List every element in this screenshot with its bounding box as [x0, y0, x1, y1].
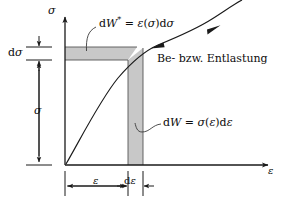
sigma-dimension-label: σ: [34, 105, 42, 116]
d-sigma-label: dσ: [8, 47, 23, 58]
dw-equals-sign: =: [185, 116, 194, 129]
dw-w: W: [170, 116, 181, 129]
dw-star-equals-sign: =: [125, 17, 134, 30]
dw-star-rhs-dsigma: σ: [167, 17, 175, 30]
d-sigma-prefix: d: [8, 46, 15, 59]
dw-rhs-deps: ε: [227, 116, 233, 129]
epsilon-dimension-label: ε: [93, 176, 98, 186]
diagram-canvas: [0, 0, 287, 207]
loading-unloading-caption: Be- bzw. Entlastung: [157, 53, 268, 64]
sigma-axis-label: σ: [48, 5, 56, 16]
stress-strain-work-diagram: σ ε dσ σ ε dε dW* = ε(σ)dσ dW = σ(ε)dε B…: [0, 0, 287, 207]
dw-star-d: d: [99, 17, 106, 30]
dw-star-w: W: [106, 17, 117, 30]
d-epsilon-symbol: ε: [130, 175, 135, 186]
dw-equation: dW = σ(ε)dε: [163, 117, 233, 128]
epsilon-axis-label: ε: [268, 166, 273, 176]
dw-star-rhs-d: d: [160, 17, 167, 30]
d-sigma-symbol: σ: [15, 46, 23, 59]
d-epsilon-label: dε: [124, 176, 136, 186]
dw-star-shaded-region: [65, 47, 137, 60]
dw-d: d: [163, 116, 170, 129]
dw-star-equation: dW* = ε(σ)dσ: [99, 16, 174, 29]
dw-rhs-sigma: σ: [198, 116, 206, 129]
dw-rhs-d: d: [220, 116, 227, 129]
